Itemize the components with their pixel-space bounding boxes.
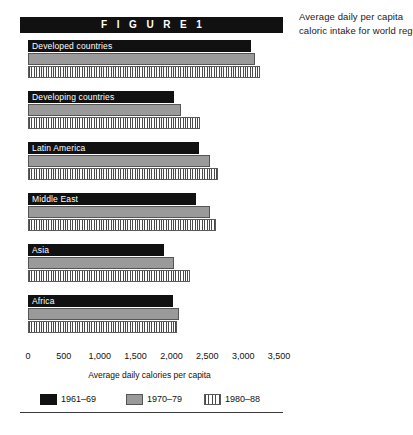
legend-item: 1980–88 (204, 393, 260, 405)
bar-3 (28, 66, 260, 78)
bar-2 (28, 53, 255, 65)
x-axis-tick: 1,500 (124, 351, 147, 361)
x-axis-tick: 500 (56, 351, 71, 361)
figure-caption: Average daily per capita caloric intake … (299, 10, 411, 37)
legend-item: 1961–69 (40, 393, 96, 405)
caption-line-2: caloric intake for world regions (299, 24, 411, 38)
x-axis-tick: 3,500 (268, 351, 291, 361)
figure-title: F I G U R E 1 (20, 19, 283, 30)
x-axis-tick: 3,000 (232, 351, 255, 361)
bar-group: Developing countries (8, 91, 291, 135)
bar-2 (28, 155, 210, 167)
bar-2 (28, 206, 210, 218)
category-label: Asia (32, 244, 49, 256)
figure-title-bar: F I G U R E 1 (20, 17, 283, 33)
bar-3 (28, 117, 200, 129)
bar-3 (28, 219, 216, 231)
bottom-divider (20, 412, 283, 413)
chart-plot-area: Developed countriesDeveloping countriesL… (8, 40, 291, 350)
category-label: Africa (32, 295, 55, 307)
legend-label: 1970–79 (147, 394, 182, 404)
category-label: Middle East (32, 193, 78, 205)
category-label: Developed countries (32, 40, 112, 52)
x-axis-title: Average daily calories per capita (8, 370, 291, 380)
caption-line-1: Average daily per capita (299, 10, 411, 24)
bar-3 (28, 270, 190, 282)
bar-2 (28, 308, 179, 320)
x-axis-tick: 1,000 (88, 351, 111, 361)
legend-swatch (40, 394, 57, 405)
bar-group: Latin America (8, 142, 291, 186)
bar-group: Developed countries (8, 40, 291, 84)
legend-swatch (126, 394, 143, 405)
bar-group: Asia (8, 244, 291, 288)
bar-3 (28, 321, 177, 333)
bar-group: Africa (8, 295, 291, 339)
figure-panel: F I G U R E 1 Developed countriesDevelop… (8, 8, 291, 420)
legend-label: 1980–88 (225, 394, 260, 404)
x-axis: 05001,0001,5002,0002,5003,0003,500 (8, 351, 291, 367)
bar-2 (28, 257, 174, 269)
bar-2 (28, 104, 181, 116)
figure-root: Average daily per capita caloric intake … (0, 0, 413, 435)
bar-3 (28, 168, 218, 180)
chart-legend: 1961–691970–791980–88 (8, 393, 291, 407)
legend-item: 1970–79 (126, 393, 182, 405)
legend-label: 1961–69 (61, 394, 96, 404)
x-axis-tick: 2,500 (196, 351, 219, 361)
x-axis-tick: 0 (25, 351, 30, 361)
legend-swatch (204, 394, 221, 405)
category-label: Latin America (32, 142, 85, 154)
bar-group: Middle East (8, 193, 291, 237)
x-axis-tick: 2,000 (160, 351, 183, 361)
category-label: Developing countries (32, 91, 114, 103)
